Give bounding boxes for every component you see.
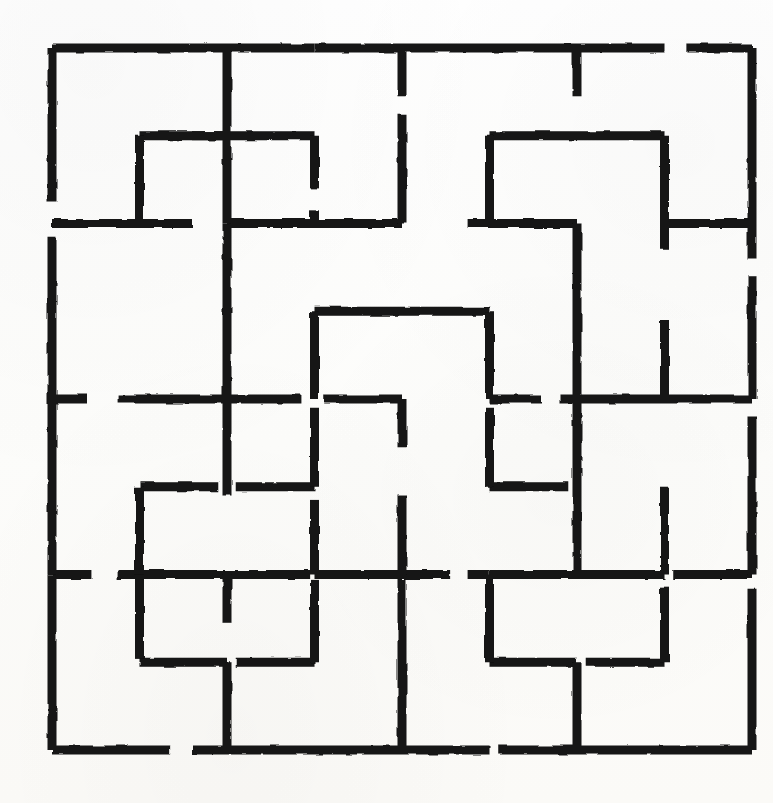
maze-drawing [0, 0, 773, 803]
maze-page [0, 0, 773, 803]
